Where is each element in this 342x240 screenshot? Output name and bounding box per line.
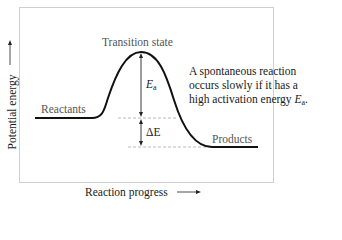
ea-subscript: a bbox=[153, 83, 157, 92]
ea-symbol: E bbox=[146, 78, 153, 90]
note-line-3-text: high activation energy bbox=[189, 93, 295, 105]
y-axis-label: Potential energy bbox=[6, 62, 18, 162]
arrow-head-up-icon bbox=[139, 53, 143, 58]
transition-state-label: Transition state bbox=[102, 36, 173, 48]
note-period: . bbox=[305, 93, 308, 105]
arrow-up-icon bbox=[8, 40, 12, 45]
x-axis-label: Reaction progress bbox=[85, 186, 168, 198]
delta-e-label: ΔE bbox=[146, 126, 160, 138]
note-ea-symbol: E bbox=[295, 93, 302, 105]
note-line-3: high activation energy Ea. bbox=[189, 92, 339, 110]
activation-energy-label: Ea bbox=[146, 78, 157, 92]
arrow-head-up-icon bbox=[139, 119, 143, 124]
note-line-2: occurs slowly if it has a bbox=[189, 78, 339, 92]
reactants-label: Reactants bbox=[41, 103, 86, 115]
annotation-note: A spontaneous reaction occurs slowly if … bbox=[189, 64, 339, 110]
arrow-head-down-icon bbox=[139, 112, 143, 117]
arrow-right-icon bbox=[196, 190, 201, 194]
note-line-1: A spontaneous reaction bbox=[189, 64, 339, 78]
arrow-head-down-icon bbox=[139, 141, 143, 146]
products-label: Products bbox=[212, 133, 252, 145]
